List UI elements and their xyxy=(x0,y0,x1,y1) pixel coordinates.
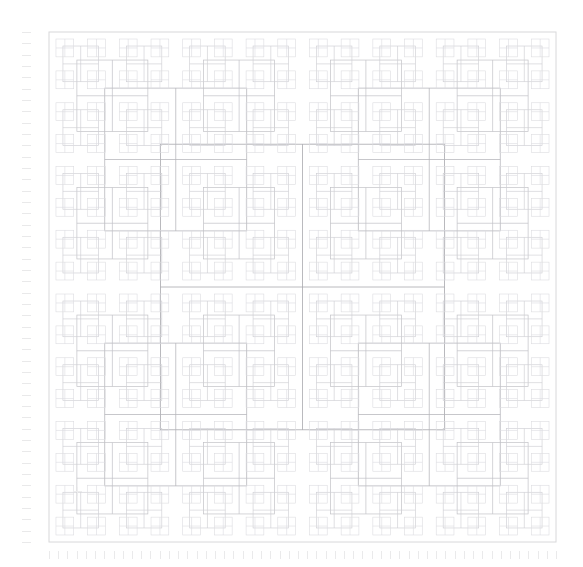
recursive-rectangle-plot xyxy=(0,0,583,567)
chart-figure xyxy=(0,0,583,567)
plot-area xyxy=(0,0,583,567)
center-marker xyxy=(73,487,82,496)
